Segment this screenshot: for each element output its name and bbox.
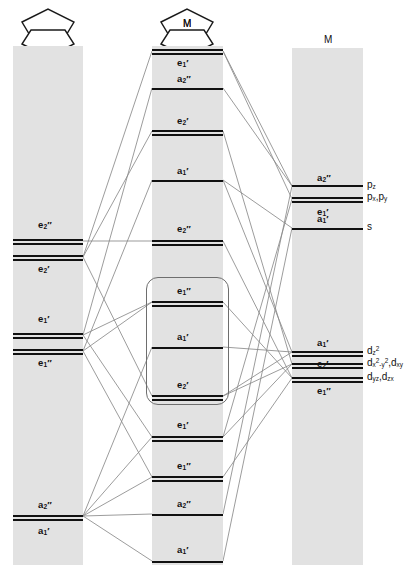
mo-label-a1p-antibonding: a1′ [177, 165, 188, 176]
ao-caption-s: s [367, 221, 372, 232]
metal-level-e1dp-d [292, 377, 363, 383]
mo-level-e1p-antibonding [152, 49, 223, 55]
mo-label-a2dp-bonding: a2″ [177, 498, 190, 509]
mo-label-a2dp-antibonding: a2″ [177, 73, 190, 84]
mo-level-a2dp-antibonding [152, 88, 223, 90]
mo-level-a2dp-bonding [152, 514, 223, 516]
ao-caption-dz2: dz2 [367, 345, 379, 356]
mo-level-e2p-antibonding [152, 130, 223, 136]
ligand-label-a1p: a1′ [38, 525, 49, 536]
mo-level-a1p-bonding [152, 561, 223, 563]
ligand-label-a2dp: a2″ [38, 499, 51, 510]
metal-energy-band [292, 48, 363, 565]
ligand-label-e2dp: e2″ [38, 219, 51, 230]
mo-label-e2p-antibonding: e2′ [177, 115, 188, 126]
ligand-energy-band [13, 46, 83, 565]
metal-column-header: M [324, 34, 332, 45]
ligand-level-e2p [13, 255, 83, 261]
mo-diagram-canvas: M M e2″ e2′ e1′ e1″ a2″ a1′ e1′ a2″ e2′ … [0, 0, 412, 571]
mo-level-a1p-antibonding [152, 180, 223, 182]
metal-level-a2dp [292, 185, 363, 187]
ao-caption-dx2y2: dx2-y2,dxy [367, 357, 403, 368]
mo-label-e1dp-bonding: e1″ [177, 460, 190, 471]
ligand-label-e2p: e2′ [38, 263, 49, 274]
mo-level-e1p-bonding [152, 436, 223, 442]
ligand-level-e1dp [13, 349, 83, 355]
ligand-label-e1dp: e1″ [38, 357, 51, 368]
ligand-level-e1p [13, 333, 83, 339]
metal-level-a1p-s [292, 228, 363, 230]
mo-level-e2dp [152, 240, 223, 246]
metal-level-e1p [292, 197, 363, 203]
metal-label-e2p-d: e2′ [317, 358, 328, 369]
metal-label-e1dp-d: e1″ [317, 385, 330, 396]
ao-caption-dyzdzx: dyz,dzx [367, 371, 394, 382]
metal-level-a1p-d [292, 351, 363, 357]
mo-label-e2dp: e2″ [177, 223, 190, 234]
mo-label-a1p-frontier: a1′ [177, 331, 188, 342]
metal-label-a2dp: a2″ [317, 172, 330, 183]
ligand-label-e1p: e1′ [38, 313, 49, 324]
mo-level-a1p-frontier [152, 347, 223, 349]
mo-label-a1p-bonding: a1′ [177, 544, 188, 555]
mo-label-e1p-antibonding: e1′ [177, 57, 188, 68]
mo-label-e1dp-frontier: e1″ [177, 285, 190, 296]
ao-caption-pxpy: px,py [367, 191, 387, 202]
ligand-level-e2dp [13, 239, 83, 245]
sandwich-metal-symbol: M [183, 18, 191, 29]
metal-label-a1p-d: a1′ [317, 337, 328, 348]
mo-label-e1p-bonding: e1′ [177, 419, 188, 430]
mo-level-e2p-frontier [152, 395, 223, 401]
ligand-level-a2dp [13, 515, 83, 521]
mo-level-e1dp-frontier [152, 301, 223, 307]
mo-level-e1dp-bonding [152, 476, 223, 482]
mo-label-e2p-frontier: e2′ [177, 379, 188, 390]
ao-caption-pz: pz [367, 179, 376, 190]
metal-label-a1p-s-text: a1′ [317, 213, 328, 224]
